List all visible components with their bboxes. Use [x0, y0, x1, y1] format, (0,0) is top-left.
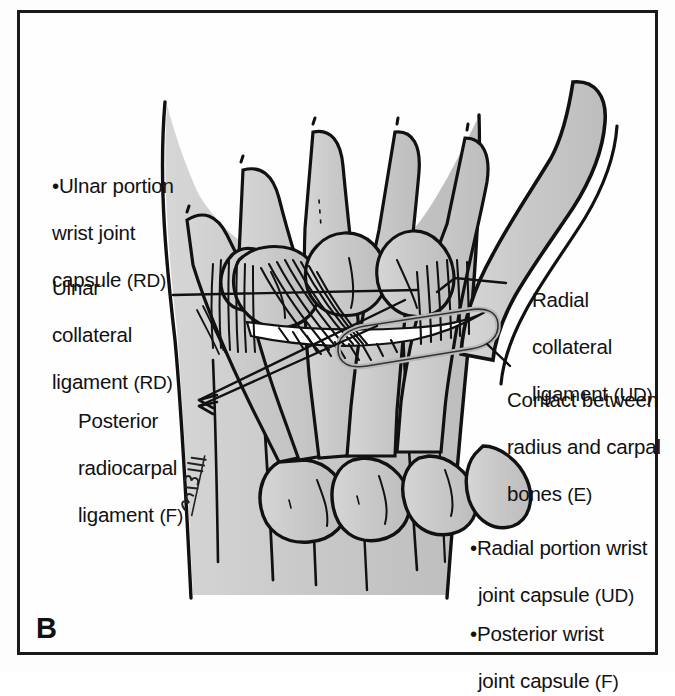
panel-letter: B [36, 612, 57, 645]
label-posterior-wrist-joint-capsule: •Posterior wrist joint capsule (F) [448, 598, 619, 696]
bullet-posterior-wrist: • [470, 622, 477, 645]
label-line-2: radius and carpal [507, 435, 661, 458]
label-line-2: joint capsule [470, 669, 595, 692]
label-line-1: Ulnar portion [59, 174, 174, 197]
label-line-1: Radial portion wrist [477, 536, 647, 559]
label-line-3: ligament [78, 503, 159, 526]
label-code-e: (E) [567, 484, 592, 505]
label-code-f: (F) [595, 671, 619, 692]
label-line-2: wrist joint [52, 221, 135, 244]
label-line-1: Ulnar [52, 276, 100, 299]
label-line-1: Posterior wrist [477, 622, 604, 645]
label-line-1: Posterior [78, 409, 158, 432]
bullet-radial-portion: • [470, 536, 477, 559]
label-posterior-radiocarpal-ligament: Posterior radiocarpal ligament (F) [56, 385, 183, 551]
label-line-2: collateral [532, 335, 612, 358]
label-contact-radius-carpal-bones: Contact between radius and carpal bones … [485, 364, 661, 530]
label-line-1: Contact between [507, 388, 658, 411]
label-line-2: collateral [52, 323, 132, 346]
label-line-1: Radial [532, 288, 589, 311]
label-line-2: radiocarpal [78, 456, 177, 479]
label-line-3: bones [507, 482, 567, 505]
label-code-f: (F) [159, 505, 183, 526]
bullet-ulnar-portion: • [52, 174, 59, 197]
